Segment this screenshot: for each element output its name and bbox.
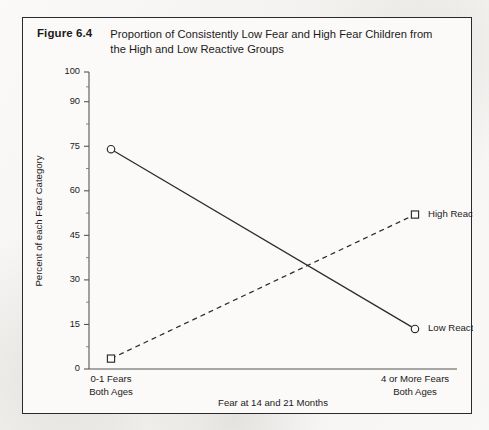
data-point-circle (411, 325, 418, 332)
y-tick-label: 75 (70, 141, 80, 151)
data-point-square (411, 211, 418, 218)
x-axis-category-labels: 0-1 FearsBoth Ages4 or More FearsBoth Ag… (89, 373, 449, 397)
series-inline-labels: Low ReactiveHigh Reactive (428, 208, 473, 333)
y-tick-label: 15 (70, 319, 80, 329)
y-tick-label: 60 (70, 185, 80, 195)
x-category-label: Both Ages (393, 386, 437, 397)
axes-group (89, 72, 457, 369)
line-chart: 0153045607590100 Percent of each Fear Ca… (23, 18, 473, 415)
data-point-circle (107, 146, 114, 153)
x-category-label: 0-1 Fears (90, 373, 131, 384)
series-line (111, 215, 415, 359)
y-axis-tick-labels: 0153045607590100 (64, 66, 80, 373)
y-tick-label: 45 (70, 230, 80, 240)
chart-plot-area: 0153045607590100 Percent of each Fear Ca… (23, 18, 473, 415)
page-background: Figure 6.4 Proportion of Consistently Lo… (0, 0, 489, 430)
y-tick-label: 0 (75, 363, 80, 373)
y-tick-label: 30 (70, 274, 80, 284)
y-axis-title: Percent of each Fear Category (33, 155, 44, 286)
y-tick-label: 90 (70, 96, 80, 106)
x-category-label: 4 or More Fears (381, 373, 449, 384)
x-axis-title: Fear at 14 and 21 Months (218, 397, 328, 408)
y-axis-ticks (84, 72, 89, 369)
data-point-square (107, 355, 114, 362)
figure-frame: Figure 6.4 Proportion of Consistently Lo… (22, 17, 472, 414)
y-tick-label: 100 (64, 66, 80, 76)
x-category-label: Both Ages (89, 386, 133, 397)
series-label: High Reactive (428, 208, 473, 219)
series-line (111, 149, 415, 329)
series-label: Low Reactive (428, 322, 473, 333)
data-series-group (107, 146, 418, 363)
